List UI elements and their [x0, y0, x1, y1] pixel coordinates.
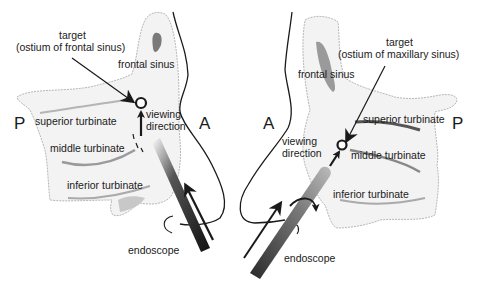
right-viewing-label-1: viewing: [282, 135, 317, 147]
left-frontal-sinus-label: frontal sinus: [118, 58, 175, 70]
right-endoscope-label: endoscope: [284, 252, 336, 264]
left-viewing-label-2: direction: [146, 120, 186, 132]
left-endoscope-label: endoscope: [128, 244, 180, 256]
left-target-marker: [136, 98, 146, 108]
left-middle-turbinate-label: middle turbinate: [50, 142, 125, 154]
right-middle-turbinate-label: middle turbinate: [351, 149, 426, 161]
right-viewing-label-2: direction: [282, 147, 322, 159]
right-target-title: target: [386, 36, 413, 48]
left-endoscope-leader: [164, 216, 173, 233]
right-anterior-label: A: [263, 114, 275, 133]
right-target-subtitle: (ostium of maxillary sinus): [338, 48, 459, 60]
right-target-marker: [338, 141, 347, 150]
left-superior-turbinate-label: superior turbinate: [35, 115, 117, 127]
left-inferior-turbinate-label: inferior turbinate: [67, 179, 143, 191]
right-superior-turbinate-label: superior turbinate: [363, 113, 445, 125]
diagram-stage: target (ostium of frontal sinus) frontal…: [0, 0, 477, 289]
right-posterior-label: P: [452, 114, 463, 133]
left-anterior-label: A: [199, 114, 211, 133]
left-panel: target (ostium of frontal sinus) frontal…: [14, 12, 225, 256]
right-frontal-sinus-label: frontal sinus: [298, 68, 355, 80]
left-viewing-label-1: viewing: [146, 108, 181, 120]
right-panel: target (ostium of maxillary sinus) front…: [240, 12, 463, 279]
right-inferior-turbinate-label: inferior turbinate: [333, 188, 409, 200]
left-target-subtitle: (ostium of frontal sinus): [16, 41, 125, 53]
left-target-title: target: [59, 29, 86, 41]
endoscopy-diagram: target (ostium of frontal sinus) frontal…: [0, 0, 477, 289]
left-posterior-label: P: [14, 114, 25, 133]
